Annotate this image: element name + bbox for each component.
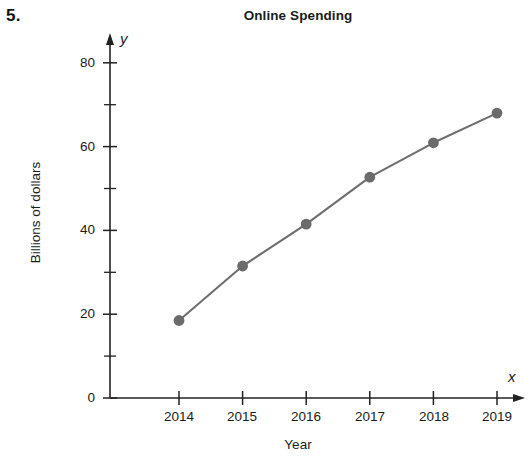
chart-figure: 5. Online Spending Billions of dollars Y… — [0, 0, 532, 473]
data-point-2016 — [301, 219, 312, 230]
plot-area — [0, 0, 532, 473]
data-point-2015 — [237, 261, 248, 272]
x-axis — [110, 394, 525, 402]
data-series-line — [179, 113, 497, 320]
data-point-2019 — [492, 108, 503, 119]
data-point-2014 — [174, 315, 185, 326]
data-point-markers — [174, 108, 503, 326]
data-point-2017 — [364, 172, 375, 183]
data-point-2018 — [428, 137, 439, 148]
y-axis — [106, 33, 114, 398]
